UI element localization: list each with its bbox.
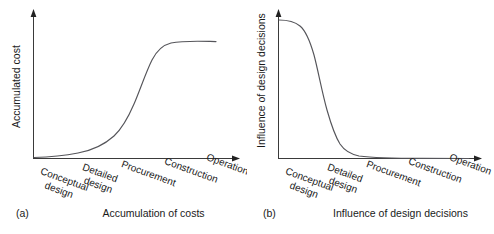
panel-tag-a: (a) xyxy=(16,206,29,220)
chart-panel-b: Influence of design decisions Conceptual… xyxy=(247,0,494,234)
chart-svg-a: Accumulated cost Conceptual design Detai… xyxy=(0,0,247,210)
panel-tag-b: (b) xyxy=(263,206,276,220)
y-axis-arrow-icon-b xyxy=(276,9,282,17)
chart-panel-a: Accumulated cost Conceptual design Detai… xyxy=(0,0,247,234)
figure-container: Accumulated cost Conceptual design Detai… xyxy=(0,0,494,234)
caption-row-b: (b) Influence of design decisions xyxy=(247,206,494,226)
y-axis-label-b: Influence of design decisions xyxy=(255,13,267,148)
panel-caption-b: Influence of design decisions xyxy=(313,206,488,220)
caption-row-a: (a) Accumulation of costs xyxy=(0,206,247,226)
y-axis-arrow-icon-a xyxy=(31,9,37,17)
influence-curve-b xyxy=(279,20,469,159)
chart-svg-b: Influence of design decisions Conceptual… xyxy=(247,0,494,210)
y-axis-label-a: Accumulated cost xyxy=(10,45,22,128)
cost-curve-a xyxy=(34,41,216,157)
panel-caption-a: Accumulation of costs xyxy=(66,206,241,220)
